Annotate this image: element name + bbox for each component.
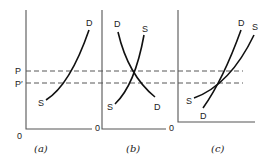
curve-a xyxy=(46,30,89,100)
origin-a: 0 xyxy=(17,131,22,141)
label-c-d-bottom: D xyxy=(200,111,207,121)
label-b-d-top: D xyxy=(114,19,121,29)
axes-a xyxy=(26,10,92,129)
label-a-d: D xyxy=(86,18,93,28)
panel-b: 0 D D S S (b) xyxy=(95,10,166,154)
demand-curve-c xyxy=(203,30,241,108)
label-a-s: S xyxy=(38,98,44,108)
supply-demand-diagram: P P′ 0 S D (a) 0 D D S S (b) 0 D D S S (… xyxy=(0,0,269,164)
label-p: P xyxy=(15,66,21,76)
label-b-s-bottom: S xyxy=(107,102,113,112)
panel-c: 0 D D S S (c) xyxy=(169,10,258,154)
supply-curve-c xyxy=(194,35,254,98)
caption-b: (b) xyxy=(126,143,140,154)
label-b-d-bottom: D xyxy=(154,102,161,112)
origin-c: 0 xyxy=(169,123,174,133)
label-c-s-top: S xyxy=(252,22,258,32)
label-b-s-top: S xyxy=(142,24,148,34)
caption-a: (a) xyxy=(34,143,48,154)
label-p-prime: P′ xyxy=(15,79,23,89)
label-c-d-top: D xyxy=(238,18,245,28)
label-c-s-bottom: S xyxy=(186,96,192,106)
supply-curve-b xyxy=(115,35,144,104)
panel-a: 0 S D (a) xyxy=(17,10,93,154)
origin-b: 0 xyxy=(95,123,100,133)
caption-c: (c) xyxy=(211,143,225,154)
